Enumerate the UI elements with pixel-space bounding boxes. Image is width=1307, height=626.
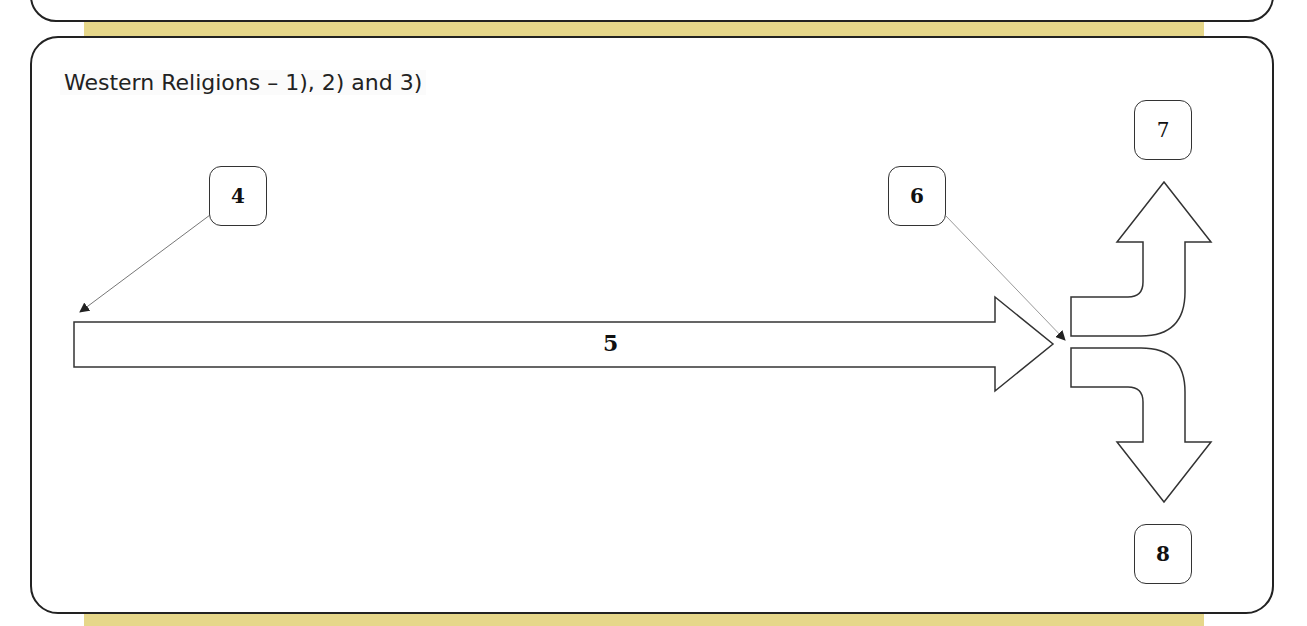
callout-box-8: 8 bbox=[1134, 524, 1192, 584]
callout-box-7: 7 bbox=[1134, 100, 1192, 160]
callout-box-4: 4 bbox=[209, 166, 267, 226]
callout-line-4 bbox=[80, 215, 210, 312]
down-branch-arrow bbox=[1071, 348, 1211, 502]
callout-box-6: 6 bbox=[888, 166, 946, 226]
timeline-diagram bbox=[0, 0, 1307, 626]
up-branch-arrow bbox=[1071, 182, 1211, 336]
main-arrow-label: 5 bbox=[603, 330, 618, 356]
main-timeline-arrow bbox=[74, 297, 1053, 391]
